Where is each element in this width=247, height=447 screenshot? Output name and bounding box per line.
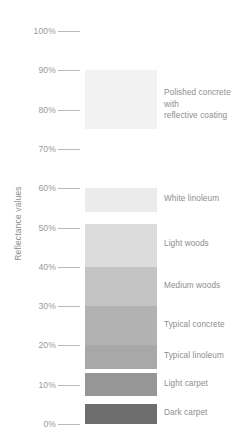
y-axis-tick-label: 100% bbox=[28, 24, 56, 38]
series-label-line: Light woods bbox=[164, 238, 247, 250]
y-axis-tick-label: 90% bbox=[28, 63, 56, 77]
y-axis-tick-mark bbox=[58, 267, 80, 268]
bar-band bbox=[85, 224, 157, 267]
y-axis-tick-mark bbox=[58, 345, 80, 346]
y-axis-title-text: Reflectance values bbox=[13, 186, 23, 261]
series-label: Dark carpet bbox=[164, 407, 247, 419]
bar-band bbox=[85, 373, 157, 397]
y-axis-tick: 30% bbox=[28, 299, 80, 313]
y-axis-tick-mark bbox=[58, 385, 80, 386]
y-axis-tick-mark bbox=[58, 149, 80, 150]
y-axis-tick-label: 50% bbox=[28, 221, 56, 235]
bar-band bbox=[85, 306, 157, 345]
y-axis-tick-mark bbox=[58, 188, 80, 189]
y-axis-tick: 70% bbox=[28, 142, 80, 156]
y-axis-tick-label: 0% bbox=[28, 417, 56, 431]
series-label-line: Typical concrete bbox=[164, 319, 247, 331]
series-label-line: Polished concrete with bbox=[164, 87, 247, 110]
y-axis-tick-mark bbox=[58, 31, 80, 32]
y-axis-tick-mark bbox=[58, 424, 80, 425]
reflectance-values-chart: Reflectance values 100%90%80%70%60%50%40… bbox=[0, 0, 247, 447]
y-axis-tick: 0% bbox=[28, 417, 80, 431]
series-label-line: White linoleum bbox=[164, 193, 247, 205]
y-axis-tick-label: 40% bbox=[28, 260, 56, 274]
series-label: Typical concrete bbox=[164, 319, 247, 331]
y-axis-tick-mark bbox=[58, 306, 80, 307]
y-axis-tick: 40% bbox=[28, 260, 80, 274]
y-axis-tick: 100% bbox=[28, 24, 80, 38]
y-axis-tick-label: 30% bbox=[28, 299, 56, 313]
y-axis-title: Reflectance values bbox=[0, 0, 16, 447]
bar-band bbox=[85, 404, 157, 424]
series-label: Typical linoleum bbox=[164, 350, 247, 362]
y-axis-tick-label: 70% bbox=[28, 142, 56, 156]
bar-band bbox=[85, 188, 157, 212]
series-label: White linoleum bbox=[164, 193, 247, 205]
bar-band bbox=[85, 345, 157, 369]
series-label: Polished concrete withreflective coating bbox=[164, 87, 247, 122]
y-axis-tick: 80% bbox=[28, 103, 80, 117]
y-axis-tick: 90% bbox=[28, 63, 80, 77]
series-label-line: Medium woods bbox=[164, 280, 247, 292]
series-label-line: Typical linoleum bbox=[164, 350, 247, 362]
series-label: Light woods bbox=[164, 238, 247, 250]
y-axis-tick: 60% bbox=[28, 181, 80, 195]
y-axis-tick-mark bbox=[58, 110, 80, 111]
bar-band bbox=[85, 70, 157, 129]
y-axis-tick-label: 60% bbox=[28, 181, 56, 195]
y-axis-tick-mark bbox=[58, 70, 80, 71]
series-label-line: Light carpet bbox=[164, 378, 247, 390]
series-label-line: reflective coating bbox=[164, 110, 247, 122]
y-axis-tick-label: 80% bbox=[28, 103, 56, 117]
y-axis-tick-label: 20% bbox=[28, 338, 56, 352]
series-label: Light carpet bbox=[164, 378, 247, 390]
y-axis-tick-label: 10% bbox=[28, 378, 56, 392]
bar-band bbox=[85, 267, 157, 306]
y-axis-tick-mark bbox=[58, 228, 80, 229]
series-label: Medium woods bbox=[164, 280, 247, 292]
y-axis-tick: 20% bbox=[28, 338, 80, 352]
y-axis-tick: 50% bbox=[28, 221, 80, 235]
series-label-line: Dark carpet bbox=[164, 407, 247, 419]
y-axis-tick: 10% bbox=[28, 378, 80, 392]
